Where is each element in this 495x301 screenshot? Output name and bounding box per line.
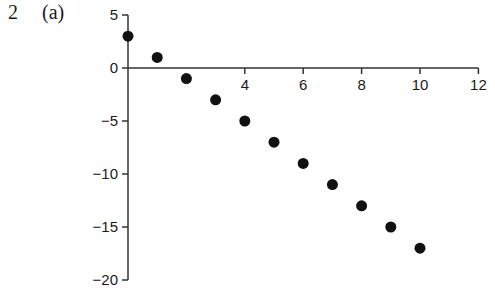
y-tick-label: −5 (101, 112, 118, 129)
data-point (327, 179, 338, 190)
data-point (356, 200, 367, 211)
data-point (385, 222, 396, 233)
data-point (181, 73, 192, 84)
data-point (152, 52, 163, 63)
x-tick-label: 8 (357, 76, 365, 93)
data-point (269, 137, 280, 148)
data-point (210, 94, 221, 105)
x-tick-label: 12 (470, 76, 487, 93)
data-point (123, 31, 134, 42)
x-tick-label: 10 (412, 76, 429, 93)
x-tick-label: 4 (241, 76, 249, 93)
data-points (123, 31, 426, 254)
y-tick-label: −10 (93, 165, 118, 182)
y-tick-label: 5 (110, 6, 118, 23)
y-tick-label: 0 (110, 59, 118, 76)
data-point (239, 116, 250, 127)
data-point (415, 243, 426, 254)
scatter-chart: 50−5−10−15−204681012 (0, 0, 495, 301)
y-tick-label: −20 (93, 271, 118, 288)
x-tick-label: 6 (299, 76, 307, 93)
y-tick-label: −15 (93, 218, 118, 235)
data-point (298, 158, 309, 169)
axes: 50−5−10−15−204681012 (93, 6, 487, 288)
